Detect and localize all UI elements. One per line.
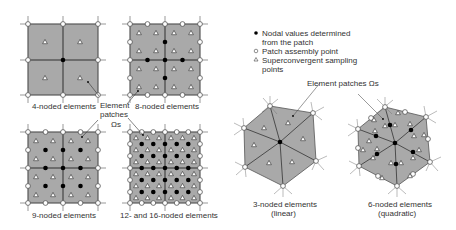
panel-8-noded bbox=[122, 16, 208, 104]
panel-16-noded bbox=[122, 118, 208, 211]
label-6-noded-sub: (quadratic) bbox=[378, 209, 416, 218]
panel-4-noded bbox=[20, 16, 106, 103]
panel-6-noded bbox=[348, 94, 441, 197]
panel-9-noded bbox=[20, 120, 106, 211]
label-3-noded-sub: (linear) bbox=[271, 209, 296, 218]
label-9-noded: 9-noded elements bbox=[32, 211, 96, 220]
annotation-element-patches-left-2: patches bbox=[100, 110, 128, 119]
panel-3-noded bbox=[234, 83, 327, 197]
annotation-element-patches-left-1: Element bbox=[100, 101, 129, 110]
label-4-noded: 4-noded elements bbox=[32, 102, 96, 111]
label-6-noded: 6-noded elements bbox=[368, 200, 432, 209]
annotation-element-patches-right: Element patches Ωs bbox=[307, 79, 379, 88]
legend-triangle-label-1: Superconvergent sampling bbox=[262, 56, 357, 65]
label-16-noded: 12- and 16-noded elements bbox=[120, 211, 218, 220]
legend-symbols bbox=[254, 31, 258, 61]
label-8-noded: 8-noded elements bbox=[135, 102, 199, 111]
legend-triangle-label-2: points bbox=[262, 65, 283, 74]
legend-filled-label-2: from the patch bbox=[262, 38, 313, 47]
legend-filled-label-1: Nodal values determined bbox=[262, 29, 351, 38]
legend-open-label: Patch assembly point bbox=[262, 47, 338, 56]
diagram-canvas bbox=[0, 0, 456, 230]
label-3-noded: 3-noded elements bbox=[253, 200, 317, 209]
annotation-omega-left: Ωs bbox=[111, 120, 121, 129]
